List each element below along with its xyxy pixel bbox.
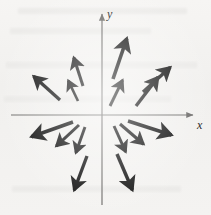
x-axis-label: x	[196, 118, 203, 132]
vector-arrow	[68, 81, 78, 101]
vector-arrow	[120, 124, 144, 144]
vector-arrow	[110, 80, 123, 106]
vector-arrow	[117, 154, 132, 190]
vector-field-figure: x y	[0, 0, 211, 215]
vector-field-plot: x y	[0, 0, 211, 215]
vector-arrow	[113, 38, 127, 79]
y-axis-label: y	[106, 7, 113, 21]
axes-group	[11, 14, 193, 205]
vector-arrow	[74, 57, 83, 86]
vector-arrow	[76, 127, 85, 153]
vector-arrow	[34, 76, 60, 100]
vector-arrow	[114, 126, 126, 152]
vector-arrow	[74, 156, 87, 190]
vector-arrow	[128, 121, 171, 135]
vector-arrow	[143, 67, 170, 92]
